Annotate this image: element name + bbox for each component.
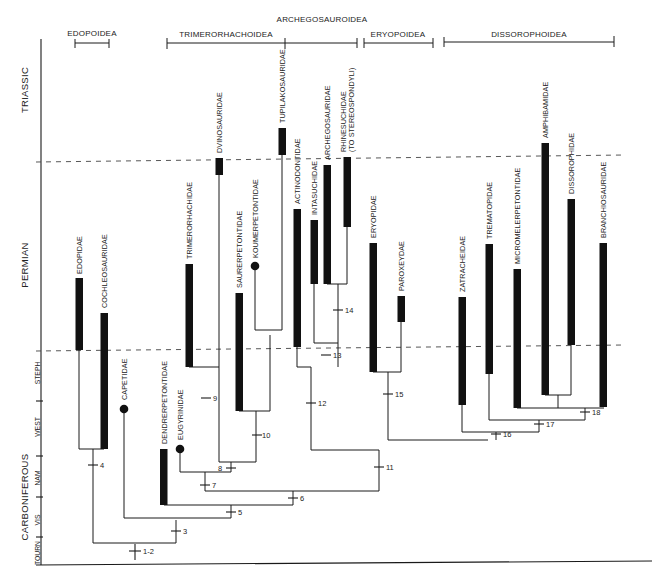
label-trimerorhachoidea: TRIMERORHACHOIDEA: [179, 30, 273, 39]
period-triassic: TRIASSIC: [19, 67, 30, 113]
node-label-1-2: 1-2: [143, 547, 154, 556]
taxon-label-cochleosauridae: COCHLEOSAURIDAE: [100, 234, 109, 308]
carboniferous-permian-boundary: [36, 345, 625, 351]
taxon-label-branchiosauridae: BRANCHIOSAURIDAE: [599, 162, 608, 238]
period-permian: PERMIAN: [19, 242, 30, 287]
dot-koumerpetontidae: [251, 262, 260, 271]
node-label-6: 6: [300, 494, 304, 503]
taxon-label-trematopidae: TREMATOPIDAE: [485, 182, 494, 239]
subdivision-tourn: TOURN: [34, 541, 41, 565]
range-bar-dvinosauridae: [216, 158, 224, 175]
bracket-trimerorhachoidea: [167, 38, 285, 49]
range-bar-micromelerpetontidae: [514, 269, 522, 408]
subdivision-vis: VIS: [34, 514, 41, 525]
range-bar-dissorophidae: [568, 199, 576, 345]
node-label-17: 17: [546, 420, 554, 429]
taxon-label-tupilakosauridae: TUPILAKOSAURIDAE: [278, 49, 287, 123]
taxon-label-zatracheidae: ZATRACHEIDAE: [458, 236, 467, 292]
range-bar-tupilakosauridae: [279, 128, 287, 155]
cladogram-figure: EDOPOIDEA TRIMERORHACHOIDEA ARCHEGOSAURO…: [0, 0, 652, 582]
taxon-label-dvinosauridae: DVINOSAURIDAE: [215, 92, 224, 153]
period-carboniferous: CARBONIFEROUS: [19, 454, 30, 541]
taxon-label-dissorophidae: DISSOROPHIDAE: [567, 133, 576, 194]
label-eryopoidea: ERYOPOIDEA: [371, 30, 426, 39]
taxon-label-edopidae: EDOPIDAE: [75, 236, 84, 274]
node-label-14: 14: [345, 306, 353, 315]
node-label-11: 11: [386, 463, 394, 472]
dot-capetidae: [120, 405, 129, 414]
taxon-label-saurerpetontidae: SAURERPETONTIDAE: [235, 211, 244, 288]
range-bar-zatracheidae: [459, 297, 467, 405]
node-label-10: 10: [262, 431, 270, 440]
node-label-4: 4: [100, 461, 104, 470]
node-label-15: 15: [395, 390, 403, 399]
node-label-8: 8: [218, 464, 222, 473]
taxon-label-rhinesuchidae: RHINESUCHIDAE (TO STEREOSPONDYLI): [339, 68, 356, 152]
node-label-13: 13: [333, 351, 341, 360]
taxon-label-archegosauridae: ARCHEGOSAURIDAE: [323, 85, 332, 160]
dot-eugyrinidae: [176, 445, 185, 454]
taxon-label-dendrerpetontidae: DENDRERPETONTIDAE: [160, 361, 169, 444]
node-label-12: 12: [318, 399, 326, 408]
node-label-5: 5: [238, 508, 242, 517]
range-bar-amphibamidae: [542, 143, 550, 395]
taxon-label-paroxeydae: PAROXEYDAE: [397, 241, 406, 291]
range-bar-cochleosauridae: [101, 313, 109, 449]
range-bar-archegosauridae: [324, 165, 332, 284]
node-label-16: 16: [503, 430, 511, 439]
taxon-label-actinodontidae: ACTINODONTIDAE: [293, 138, 302, 204]
label-dissorophoidea: DISSOROPHOIDEA: [491, 30, 567, 39]
range-bar-rhinesuchidae: [344, 157, 352, 227]
range-bar-eryopidae: [370, 243, 378, 372]
range-bar-intasuchidae: [311, 220, 319, 284]
subdivision-nam: NAM: [34, 470, 41, 485]
subdivision-west: WEST: [34, 417, 41, 437]
range-bar-paroxeydae: [398, 296, 406, 322]
taxon-label-trimerorhachidae: TRIMERORHACHIDAE: [185, 182, 194, 259]
taxon-label-eugyrinidae: EUGYRINIDAE: [176, 389, 185, 440]
range-bar-dendrerpetontidae: [160, 449, 168, 505]
range-bar-saurerpetontidae: [236, 293, 244, 411]
taxon-range-bars: [76, 128, 608, 505]
taxon-label-amphibamidae: AMPHIBAMIDAE: [541, 82, 550, 138]
taxon-label-capetidae: CAPETIDAE: [120, 358, 129, 400]
bracket-archegosauroidea: [285, 38, 357, 48]
node-label-7: 7: [212, 481, 216, 490]
label-edopoidea: EDOPOIDEA: [67, 29, 117, 38]
range-bar-edopidae: [76, 278, 84, 350]
tree-branches: [79, 155, 604, 543]
bracket-eryopoidea: [364, 38, 433, 48]
rhinesuchidae-line2: (TO STEREOSPONDYLI): [347, 68, 356, 152]
range-bar-trimerorhachidae: [186, 264, 194, 367]
taxon-label-koumerpetontidae: KOUMERPETONTIDAE: [251, 179, 260, 258]
range-bar-actinodontidae: [294, 209, 302, 347]
label-archegosauroidea: ARCHEGOSAUROIDEA: [277, 15, 368, 24]
range-bar-trematopidae: [486, 244, 494, 374]
baseline-axis: [36, 561, 652, 565]
taxon-label-eryopidae: ERYOPIDAE: [369, 195, 378, 238]
node-label-18: 18: [592, 408, 600, 417]
subdivision-steph: STEPH: [34, 362, 41, 385]
node-label-9: 9: [213, 394, 217, 403]
taxon-label-intasuchidae: INTASUCHIDAE: [310, 161, 319, 215]
node-label-3: 3: [183, 527, 187, 536]
taxon-label-micromelerpetontidae: MICROMELERPETONTIDAE: [513, 167, 522, 264]
range-bar-branchiosauridae: [600, 243, 608, 407]
bracket-edopoidea: [75, 39, 109, 48]
